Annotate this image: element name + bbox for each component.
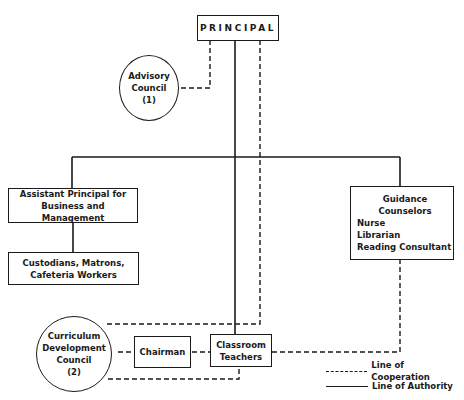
classroom-teachers-line-2: Teachers: [220, 351, 262, 363]
chairman-label: Chairman: [140, 346, 186, 358]
advisory-council-line-1: Advisory: [128, 70, 170, 82]
advisory-council-line-2: Council: [131, 82, 166, 94]
curriculum-council-line-1: Curriculum: [48, 330, 101, 342]
assistant-principal-line-1: Assistant Principal for: [20, 188, 126, 200]
principal-label: PRINCIPAL: [200, 22, 276, 34]
assistant-principal-line-2: Business and Management: [9, 200, 137, 224]
curriculum-council-line-3: Council: [56, 354, 91, 366]
custodians-line-2: Cafeteria Workers: [30, 269, 117, 281]
advisory-council-node: Advisory Council (1): [119, 55, 179, 121]
guidance-line-2: Nurse: [357, 217, 385, 229]
advisory-council-line-3: (1): [142, 94, 156, 106]
classroom-teachers-line-1: Classroom: [216, 339, 266, 351]
curriculum-council-node: Curriculum Development Council (2): [36, 316, 112, 392]
teachers-to-curriculum-line: [106, 369, 239, 379]
legend-authority: Line of Authority: [326, 380, 464, 392]
guidance-line-1: Guidance Counselors: [357, 193, 453, 217]
principal-node: PRINCIPAL: [197, 15, 279, 41]
classroom-teachers-node: Classroom Teachers: [210, 334, 272, 367]
dashed-line-sample: [326, 371, 367, 372]
guidance-line-3: Librarian: [357, 229, 400, 241]
teachers-to-guidance-line: [272, 260, 400, 352]
curriculum-council-line-2: Development: [42, 342, 106, 354]
principal-to-advisory-line: [175, 40, 210, 88]
custodians-node: Custodians, Matrons, Cafeteria Workers: [8, 252, 139, 285]
legend-cooperation: Line of Cooperation: [326, 365, 464, 377]
guidance-line-4: Reading Consultant: [357, 241, 451, 253]
assistant-principal-node: Assistant Principal for Business and Man…: [8, 188, 138, 223]
curriculum-council-line-4: (2): [67, 366, 81, 378]
legend-authority-label: Line of Authority: [372, 380, 453, 392]
chairman-node: Chairman: [134, 336, 191, 368]
custodians-line-1: Custodians, Matrons,: [23, 257, 125, 269]
legend: Line of Cooperation Line of Authority: [326, 365, 464, 392]
guidance-node: Guidance Counselors Nurse Librarian Read…: [350, 186, 454, 260]
solid-line-sample: [326, 386, 368, 387]
